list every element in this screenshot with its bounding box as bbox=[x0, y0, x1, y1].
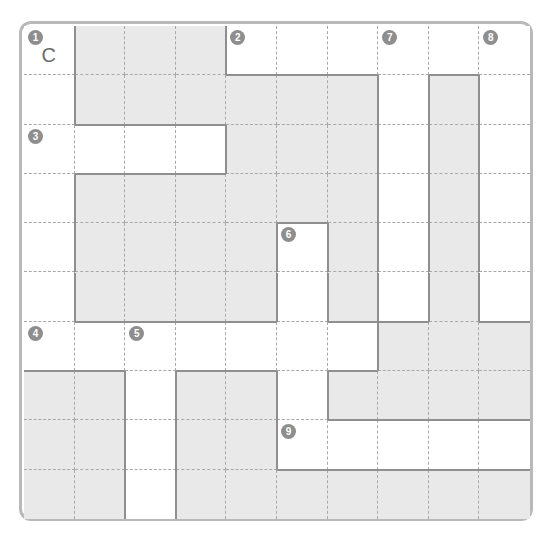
crossword-cell[interactable] bbox=[24, 75, 75, 124]
blocked-cell bbox=[24, 420, 75, 469]
blocked-cell bbox=[226, 223, 277, 272]
blocked-cell bbox=[277, 470, 328, 519]
clue-number-badge: 8 bbox=[483, 30, 498, 45]
crossword-cell[interactable] bbox=[479, 420, 530, 469]
blocked-cell bbox=[429, 223, 480, 272]
crossword-cell[interactable] bbox=[226, 322, 277, 371]
crossword-cell[interactable] bbox=[479, 75, 530, 124]
blocked-cell bbox=[176, 371, 227, 420]
blocked-cell bbox=[479, 371, 530, 420]
crossword-cell[interactable] bbox=[378, 75, 429, 124]
clue-number-badge: 1 bbox=[28, 30, 43, 45]
blocked-cell bbox=[226, 75, 277, 124]
crossword-cell[interactable] bbox=[378, 272, 429, 321]
crossword-cell[interactable] bbox=[125, 420, 176, 469]
crossword-cell[interactable] bbox=[479, 174, 530, 223]
crossword-cell[interactable]: 9 bbox=[277, 420, 328, 469]
crossword-cell[interactable] bbox=[75, 322, 126, 371]
crossword-cell[interactable] bbox=[277, 26, 328, 75]
crossword-cell[interactable]: 8 bbox=[479, 26, 530, 75]
blocked-cell bbox=[75, 174, 126, 223]
blocked-cell bbox=[226, 125, 277, 174]
blocked-cell bbox=[226, 272, 277, 321]
crossword-cell[interactable] bbox=[378, 420, 429, 469]
blocked-cell bbox=[176, 272, 227, 321]
crossword-cell[interactable] bbox=[176, 322, 227, 371]
blocked-cell bbox=[125, 223, 176, 272]
blocked-cell bbox=[75, 26, 126, 75]
blocked-cell bbox=[176, 174, 227, 223]
blocked-cell bbox=[277, 174, 328, 223]
crossword-cell[interactable] bbox=[479, 125, 530, 174]
crossword-cell[interactable] bbox=[378, 223, 429, 272]
clue-number-badge: 5 bbox=[129, 326, 144, 341]
crossword-cell[interactable] bbox=[328, 322, 379, 371]
blocked-cell bbox=[328, 75, 379, 124]
crossword-cell[interactable] bbox=[378, 125, 429, 174]
crossword-cell[interactable] bbox=[125, 371, 176, 420]
blocked-cell bbox=[378, 371, 429, 420]
crossword-cell[interactable]: 6 bbox=[277, 223, 328, 272]
blocked-cell bbox=[429, 125, 480, 174]
crossword-cell[interactable]: 3 bbox=[24, 125, 75, 174]
blocked-cell bbox=[176, 420, 227, 469]
blocked-cell bbox=[328, 223, 379, 272]
clue-number-badge: 4 bbox=[28, 326, 43, 341]
blocked-cell bbox=[125, 272, 176, 321]
crossword-cell[interactable] bbox=[479, 272, 530, 321]
blocked-cell bbox=[75, 470, 126, 519]
blocked-cell bbox=[75, 420, 126, 469]
crossword-cell[interactable] bbox=[378, 174, 429, 223]
blocked-cell bbox=[24, 470, 75, 519]
crossword-cell[interactable] bbox=[24, 174, 75, 223]
crossword-cell[interactable]: 5 bbox=[125, 322, 176, 371]
crossword-cell[interactable] bbox=[429, 420, 480, 469]
blocked-cell bbox=[176, 470, 227, 519]
crossword-cell[interactable] bbox=[277, 322, 328, 371]
blocked-cell bbox=[429, 174, 480, 223]
clue-number-badge: 2 bbox=[230, 30, 245, 45]
crossword-cell[interactable] bbox=[328, 420, 379, 469]
blocked-cell bbox=[328, 272, 379, 321]
blocked-cell bbox=[479, 322, 530, 371]
blocked-cell bbox=[125, 26, 176, 75]
clue-number-badge: 7 bbox=[382, 30, 397, 45]
blocked-cell bbox=[226, 420, 277, 469]
blocked-cell bbox=[378, 322, 429, 371]
crossword-grid: 1C27836459 bbox=[24, 26, 530, 519]
crossword-cell[interactable] bbox=[479, 223, 530, 272]
blocked-cell bbox=[328, 371, 379, 420]
crossword-cell[interactable]: 2 bbox=[226, 26, 277, 75]
clue-number-badge: 3 bbox=[28, 129, 43, 144]
crossword-cell[interactable] bbox=[75, 125, 126, 174]
blocked-cell bbox=[176, 26, 227, 75]
blocked-cell bbox=[226, 470, 277, 519]
blocked-cell bbox=[429, 322, 480, 371]
crossword-cell[interactable] bbox=[429, 26, 480, 75]
blocked-cell bbox=[429, 371, 480, 420]
crossword-cell[interactable] bbox=[277, 272, 328, 321]
crossword-cell[interactable]: 7 bbox=[378, 26, 429, 75]
blocked-cell bbox=[378, 470, 429, 519]
blocked-cell bbox=[176, 75, 227, 124]
blocked-cell bbox=[24, 371, 75, 420]
crossword-cell[interactable] bbox=[176, 125, 227, 174]
blocked-cell bbox=[125, 75, 176, 124]
blocked-cell bbox=[429, 470, 480, 519]
blocked-cell bbox=[429, 75, 480, 124]
crossword-cell[interactable] bbox=[328, 26, 379, 75]
crossword-cell[interactable] bbox=[125, 125, 176, 174]
crossword-cell[interactable]: 1C bbox=[24, 26, 75, 75]
entered-letter: C bbox=[24, 44, 74, 67]
crossword-cell[interactable] bbox=[24, 223, 75, 272]
crossword-cell[interactable] bbox=[24, 272, 75, 321]
crossword-cell[interactable]: 4 bbox=[24, 322, 75, 371]
blocked-cell bbox=[125, 174, 176, 223]
blocked-cell bbox=[328, 174, 379, 223]
clue-number-badge: 9 bbox=[281, 424, 296, 439]
blocked-cell bbox=[328, 470, 379, 519]
blocked-cell bbox=[277, 75, 328, 124]
crossword-cell[interactable] bbox=[277, 371, 328, 420]
blocked-cell bbox=[226, 371, 277, 420]
crossword-cell[interactable] bbox=[125, 470, 176, 519]
